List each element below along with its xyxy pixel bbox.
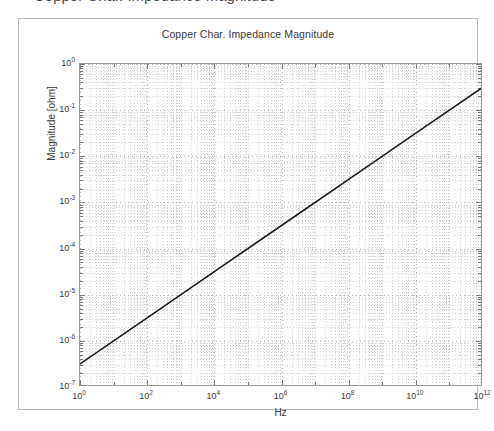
y-axis-title: Magnitude [ohm]: [46, 18, 57, 230]
y-tick-label-10^-4: 10-4: [45, 243, 75, 253]
x-tick-label-10^6: 106: [274, 391, 288, 401]
y-tick-label-10^-7: 10-7: [45, 381, 75, 391]
figure-frame: Copper Char. Impedance Magnitude 1001021…: [18, 18, 478, 410]
plot-area: [79, 63, 482, 386]
clipped-header-text: Copper Char. Impedance Magnitude: [34, 0, 276, 4]
x-axis-title: Hz: [79, 407, 482, 418]
data-curve-svg: [80, 64, 482, 386]
x-tick-label-10^8: 108: [341, 391, 355, 401]
y-tick-label-10^-6: 10-6: [45, 335, 75, 345]
y-tick-label-10^-5: 10-5: [45, 289, 75, 299]
chart-title: Copper Char. Impedance Magnitude: [19, 28, 477, 40]
clipped-header-sliver: Copper Char. Impedance Magnitude: [0, 0, 494, 11]
impedance-magnitude-line: [80, 87, 482, 364]
x-tick-label-10^2: 102: [139, 391, 153, 401]
x-tick-label-10^10: 1010: [406, 391, 423, 401]
gridline-x-minor: [481, 64, 482, 385]
x-tick-label-10^4: 104: [207, 391, 221, 401]
x-tick-label-10^0: 100: [72, 391, 86, 401]
x-tick-label-10^12: 1012: [473, 391, 490, 401]
